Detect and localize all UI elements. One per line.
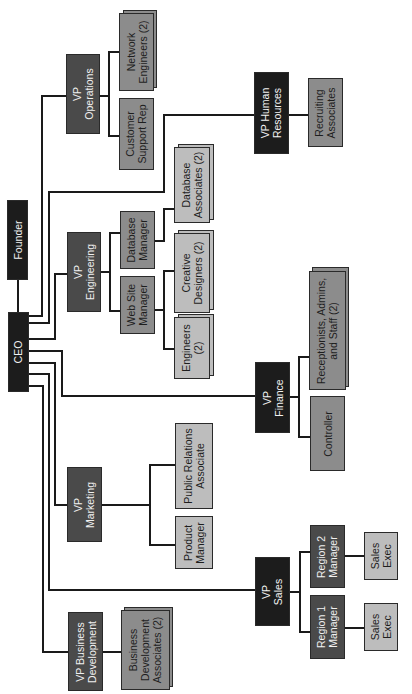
node-label: Network Engineers (2) [125,20,149,83]
connector-region1-sales-exec [345,627,364,629]
connector-vp-finance-reports [298,356,309,358]
connector-founder-ceo [17,280,19,312]
connector-ceo-vp-marketing [54,504,67,506]
node-database-associates: Database Associates (2) [174,147,210,223]
connector-ceo-vp-engineering [54,273,56,340]
node-sales-exec-region-1: Sales Exec [364,603,398,651]
node-label: Product Manager [182,522,206,563]
connector-db-manager-associates [163,208,165,242]
node-label: Database Manager [126,218,150,263]
connector-ceo-vp-sales [48,589,255,591]
node-label: Sales Exec [369,614,393,640]
connector-ceo-vp-engineering [54,273,67,275]
node-receptionists-admins-staff: Receptionists, Admins, and Staff (2) [309,271,346,390]
node-label: Business Development Associates (2) [128,617,164,684]
node-founder: Founder [7,200,28,280]
connector-vp-operations-reports [108,135,119,137]
node-creative-designers: Creative Designers (2) [174,233,210,313]
node-label: VP Marketing [73,481,97,527]
connector-vp-engineering-reports [109,232,111,312]
node-label: Recruiting Associates [314,87,338,138]
node-label: Sales Exec [369,543,393,569]
node-label: VP Business Development [74,621,98,683]
node-label: Creative Designers (2) [180,241,204,304]
connector-ceo-vp-hr [48,191,164,193]
node-vp-human-resources: VP Human Resources [254,72,289,154]
connector-ceo-vp-sales [48,373,50,591]
node-label: Engineers (2) [180,324,204,371]
connector-vp-sales-reports [299,631,310,633]
node-label: VP Sales [260,578,284,604]
node-label: Controller [322,411,334,457]
connector-vp-marketing-reports [149,464,151,546]
connector-db-manager-associates [163,208,174,210]
connector-web-manager-reports [163,270,174,272]
node-controller: Controller [310,396,345,471]
node-label: Region 2 Manager [316,535,340,577]
node-vp-business-development: VP Business Development [68,612,103,691]
connector-web-manager-reports [163,348,174,350]
connector-ceo-vp-marketing [29,362,56,364]
node-label: Database Associates (2) [180,152,204,219]
node-ceo: CEO [8,312,29,392]
node-public-relations-associate: Public Relations Associate [175,423,213,509]
node-label: CEO [13,341,25,364]
connector-vp-marketing-reports [102,504,150,506]
connector-vp-hr-reports [288,114,308,116]
connector-ceo-vp-hr [163,114,165,193]
connector-ceo-vp-marketing [54,362,56,506]
connector-vp-finance-reports [298,356,300,438]
node-customer-support-rep: Customer Support Rep [119,98,154,170]
node-recruiting-associates: Recruiting Associates [308,78,343,147]
node-vp-finance: VP Finance [255,362,290,433]
connector-vp-business-dev-reports [102,651,121,653]
node-database-manager: Database Manager [120,211,155,269]
connector-ceo-vp-finance [61,395,255,397]
connector-ceo-vp-hr [48,191,50,324]
node-vp-marketing: VP Marketing [67,467,102,542]
connector-vp-marketing-reports [149,464,175,466]
node-network-engineers: Network Engineers (2) [119,13,154,91]
node-label: VP Engineering [72,244,96,300]
connector-vp-operations-reports [108,51,119,53]
node-product-manager: Product Manager [175,516,213,569]
connector-vp-engineering-reports [109,232,120,234]
node-label: Founder [12,220,24,259]
connector-vp-marketing-reports [149,544,175,546]
node-label: Region 1 Manager [316,606,340,648]
connector-vp-engineering-reports [109,310,120,312]
node-region-1-manager: Region 1 Manager [310,595,345,659]
node-label: VP Operations [71,68,95,119]
connector-vp-sales-reports [299,551,301,633]
node-label: Receptionists, Admins, and Staff (2) [316,277,340,383]
connector-ceo-vp-business-dev [42,385,44,653]
connector-ceo-vp-engineering [29,338,56,340]
node-vp-sales: VP Sales [255,557,290,626]
org-chart: Founder CEO VP Operations Network Engine… [0,0,412,694]
connector-vp-operations-reports [108,51,110,137]
connector-ceo-vp-operations [41,95,43,317]
connector-ceo-vp-operations [41,95,66,97]
connector-ceo-vp-finance [29,350,63,352]
connector-ceo-vp-sales [29,373,50,375]
connector-web-manager-reports [163,270,165,350]
node-label: Web Site Manager [126,284,150,326]
connector-ceo-vp-hr [163,114,254,116]
node-engineers: Engineers (2) [174,317,210,379]
connector-vp-sales-reports [299,551,310,553]
node-label: VP Human Resources [260,88,284,139]
connector-ceo-vp-business-dev [42,651,68,653]
node-vp-engineering: VP Engineering [67,232,101,312]
node-sales-exec-region-2: Sales Exec [364,532,398,580]
connector-region2-sales-exec [345,555,364,557]
node-label: Customer Support Rep [125,105,149,164]
node-region-2-manager: Region 2 Manager [310,525,345,588]
node-label: Public Relations Associate [182,428,206,503]
node-web-site-manager: Web Site Manager [120,276,155,334]
connector-vp-finance-reports [298,436,310,438]
node-vp-operations: VP Operations [66,54,100,134]
node-label: VP Finance [261,379,285,416]
connector-ceo-vp-hr [29,322,50,324]
connector-ceo-vp-finance [61,350,63,396]
node-business-development-associates: Business Development Associates (2) [121,610,170,690]
